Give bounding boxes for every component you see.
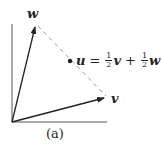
v-term: v xyxy=(113,53,121,68)
midpoint-equation: u = 1 2 v + 1 2 w xyxy=(76,52,160,69)
vector-w-arrow xyxy=(12,27,35,122)
plus-sign: + xyxy=(125,53,136,68)
u-symbol: u xyxy=(76,53,85,68)
fraction-half-2: 1 2 xyxy=(141,52,148,69)
frac-denominator: 2 xyxy=(106,61,111,69)
figure-caption: (a) xyxy=(46,126,64,141)
equals-sign: = xyxy=(89,53,100,68)
frac-denominator: 2 xyxy=(142,61,147,69)
vector-w-label: w xyxy=(27,6,38,21)
w-term: w xyxy=(149,53,160,68)
vector-v-arrow xyxy=(12,98,104,122)
vector-v-label: v xyxy=(111,91,119,106)
fraction-half-1: 1 2 xyxy=(105,52,112,69)
midpoint-dot xyxy=(68,59,72,63)
vector-diagram xyxy=(0,0,162,146)
